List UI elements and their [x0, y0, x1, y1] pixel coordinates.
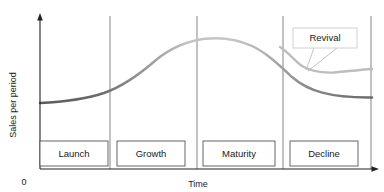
stage-box-growth: Growth: [117, 141, 185, 166]
x-axis-arrow: [372, 166, 380, 172]
stage-box-maturity: Maturity: [203, 141, 275, 166]
origin-label: 0: [21, 177, 26, 187]
y-axis-arrow: [37, 13, 43, 21]
product-life-cycle-diagram: Revival Sales per period Time 0 Launch G…: [0, 0, 384, 192]
stage-label-decline: Decline: [308, 148, 340, 159]
revival-curve: [280, 47, 372, 73]
stage-label-launch: Launch: [58, 148, 89, 159]
x-axis-title: Time: [188, 179, 208, 189]
stage-label-maturity: Maturity: [222, 148, 256, 159]
revival-callout-label: Revival: [309, 32, 340, 43]
y-axis-title: Sales per period: [8, 72, 18, 138]
stage-box-launch: Launch: [40, 141, 108, 166]
stage-box-decline: Decline: [290, 141, 358, 166]
stage-label-growth: Growth: [136, 148, 167, 159]
diagram-canvas: Revival Sales per period Time 0 Launch G…: [0, 0, 384, 192]
